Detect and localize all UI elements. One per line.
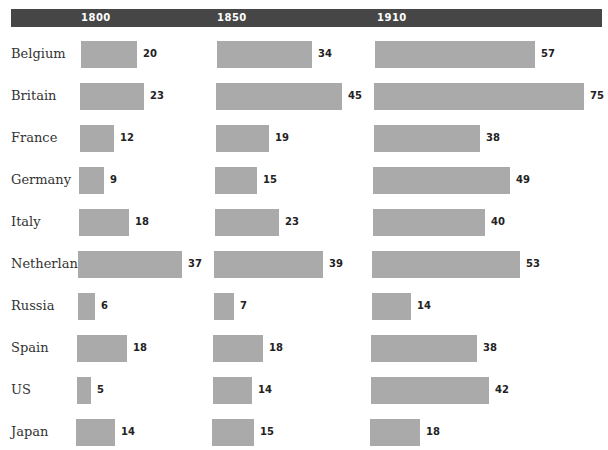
value-label-1850: 7 (240, 299, 247, 313)
bar-1910 (373, 209, 485, 236)
bar-1800 (78, 251, 182, 278)
bar-1800 (76, 419, 115, 446)
chart-row: Netherlands373953 (0, 251, 608, 278)
bar-1800 (78, 293, 95, 320)
country-label: Spain (11, 339, 49, 357)
value-label-1800: 20 (143, 47, 157, 61)
bar-1910 (375, 41, 535, 68)
chart-row: Germany91549 (0, 167, 608, 194)
bar-1800 (77, 335, 127, 362)
bar-1850 (215, 167, 257, 194)
value-label-1850: 18 (269, 341, 283, 355)
value-label-1850: 19 (275, 131, 289, 145)
bar-1910 (374, 83, 584, 110)
bar-1800 (77, 377, 91, 404)
country-label: Italy (11, 213, 41, 231)
chart-row: Italy182340 (0, 209, 608, 236)
bar-1800 (80, 125, 114, 152)
chart-row: US51442 (0, 377, 608, 404)
bar-1910 (370, 419, 420, 446)
value-label-1800: 23 (150, 89, 164, 103)
value-label-1910: 49 (516, 173, 530, 187)
value-label-1910: 53 (526, 257, 540, 271)
bar-1910 (372, 251, 520, 278)
bar-1800 (79, 167, 104, 194)
value-label-1800: 5 (97, 383, 104, 397)
bar-1850 (214, 293, 234, 320)
bar-1800 (81, 41, 137, 68)
year-header-bar: 1800 1850 1910 (11, 9, 602, 27)
bar-1910 (374, 125, 480, 152)
value-label-1910: 40 (491, 215, 505, 229)
country-label: Britain (11, 87, 56, 105)
value-label-1800: 14 (121, 425, 135, 439)
bar-1850 (217, 41, 312, 68)
bar-1910 (372, 293, 411, 320)
bar-1850 (213, 377, 252, 404)
country-label: France (11, 129, 57, 147)
value-label-1850: 23 (285, 215, 299, 229)
value-label-1850: 15 (263, 173, 277, 187)
value-label-1910: 75 (590, 89, 604, 103)
bar-1910 (371, 377, 489, 404)
bar-1910 (371, 335, 477, 362)
year-label-1910: 1910 (377, 10, 407, 26)
chart-row: Spain181838 (0, 335, 608, 362)
bar-1850 (214, 251, 323, 278)
value-label-1800: 18 (133, 341, 147, 355)
country-label: Russia (11, 297, 54, 315)
value-label-1910: 38 (486, 131, 500, 145)
value-label-1800: 18 (135, 215, 149, 229)
bar-1850 (216, 125, 269, 152)
value-label-1910: 42 (495, 383, 509, 397)
value-label-1800: 37 (188, 257, 202, 271)
year-label-1800: 1800 (81, 10, 111, 26)
value-label-1800: 12 (120, 131, 134, 145)
chart-row: Belgium203457 (0, 41, 608, 68)
bar-1850 (213, 335, 263, 362)
value-label-1910: 38 (483, 341, 497, 355)
chart-row: Britain234575 (0, 83, 608, 110)
bar-1850 (212, 419, 254, 446)
bar-1850 (216, 83, 342, 110)
value-label-1850: 15 (260, 425, 274, 439)
chart-row: Russia6714 (0, 293, 608, 320)
value-label-1850: 14 (258, 383, 272, 397)
value-label-1910: 57 (541, 47, 555, 61)
country-label: Germany (11, 171, 71, 189)
bar-1800 (79, 209, 129, 236)
country-label: Japan (11, 423, 48, 441)
chart-row: Japan141518 (0, 419, 608, 446)
value-label-1850: 45 (348, 89, 362, 103)
value-label-1850: 34 (318, 47, 332, 61)
value-label-1850: 39 (329, 257, 343, 271)
value-label-1910: 14 (417, 299, 431, 313)
bar-1910 (373, 167, 510, 194)
year-label-1850: 1850 (217, 10, 247, 26)
country-label: US (11, 381, 31, 399)
country-label: Belgium (11, 45, 66, 63)
value-label-1800: 9 (110, 173, 117, 187)
bar-1800 (80, 83, 144, 110)
value-label-1910: 18 (426, 425, 440, 439)
value-label-1800: 6 (101, 299, 108, 313)
bar-1850 (215, 209, 279, 236)
chart-row: France121938 (0, 125, 608, 152)
